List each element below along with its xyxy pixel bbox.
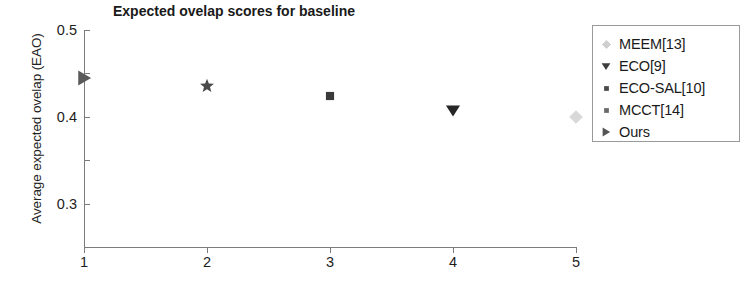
y-tick-mark: 0.3 bbox=[84, 117, 90, 118]
legend-label: Ours bbox=[619, 124, 650, 140]
x-tick-label: 1 bbox=[80, 254, 88, 270]
x-tick-label: 3 bbox=[326, 254, 334, 270]
legend-marker bbox=[593, 85, 619, 92]
legend-marker bbox=[593, 127, 619, 137]
chart-figure: Average expected ovelap (EAO) Expected o… bbox=[0, 0, 749, 282]
down-triangle-icon bbox=[601, 61, 611, 71]
y-axis-line bbox=[84, 30, 85, 247]
y-axis-title: Average expected ovelap (EAO) bbox=[29, 14, 44, 244]
diamond-icon bbox=[569, 110, 583, 124]
x-tick-label: 2 bbox=[203, 254, 211, 270]
x-tick-label: 4 bbox=[449, 254, 457, 270]
legend-label: MEEM[13] bbox=[619, 36, 686, 52]
y-tick-mark: 0.2 bbox=[84, 160, 90, 161]
x-tick-mark bbox=[84, 247, 85, 253]
x-tick-mark bbox=[453, 247, 454, 253]
x-tick-mark bbox=[330, 247, 331, 253]
square-icon bbox=[603, 107, 610, 114]
data-point bbox=[200, 79, 215, 94]
x-tick-label: 5 bbox=[572, 254, 580, 270]
y-tick-label: 0.5 bbox=[57, 22, 77, 38]
right-triangle-icon bbox=[76, 69, 93, 86]
down-triangle-icon bbox=[445, 102, 461, 118]
legend-label: ECO[9] bbox=[619, 58, 666, 74]
diamond-icon bbox=[602, 40, 611, 49]
legend-marker bbox=[593, 107, 619, 114]
legend-item[interactable]: MCCT[14] bbox=[593, 99, 739, 121]
data-point bbox=[76, 69, 93, 86]
legend-label: MCCT[14] bbox=[619, 102, 684, 118]
data-point bbox=[569, 110, 583, 124]
right-triangle-icon bbox=[601, 127, 611, 137]
square-icon bbox=[603, 85, 610, 92]
y-tick-mark: 0.1 bbox=[84, 204, 90, 205]
star-icon bbox=[200, 79, 215, 94]
square-icon bbox=[324, 90, 336, 102]
legend-marker bbox=[593, 61, 619, 71]
data-point bbox=[324, 90, 336, 102]
x-tick-mark bbox=[576, 247, 577, 253]
y-tick-mark: 0.5 bbox=[84, 30, 90, 31]
chart-title: Expected ovelap scores for baseline bbox=[113, 3, 355, 19]
y-tick-label: 0.3 bbox=[57, 196, 77, 212]
x-tick-mark bbox=[207, 247, 208, 253]
plot-area: 00.10.20.30.40.5 12345 bbox=[84, 30, 576, 247]
legend-item[interactable]: MEEM[13] bbox=[593, 33, 739, 55]
chart-legend: MEEM[13]ECO[9]ECO-SAL[10]MCCT[14]Ours bbox=[592, 25, 740, 142]
data-point bbox=[445, 102, 461, 118]
legend-label: ECO-SAL[10] bbox=[619, 80, 705, 96]
y-tick-label: 0.4 bbox=[57, 109, 77, 125]
legend-item[interactable]: ECO[9] bbox=[593, 55, 739, 77]
legend-item[interactable]: ECO-SAL[10] bbox=[593, 77, 739, 99]
legend-marker bbox=[593, 40, 619, 49]
legend-item[interactable]: Ours bbox=[593, 121, 739, 143]
